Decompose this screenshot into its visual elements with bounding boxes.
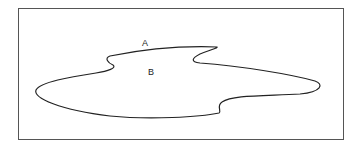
diagram-canvas: A B bbox=[0, 0, 359, 148]
frame-border bbox=[19, 9, 344, 140]
label-a: A bbox=[142, 38, 148, 48]
label-b: B bbox=[148, 67, 154, 77]
region-boundary-curve bbox=[36, 47, 320, 118]
